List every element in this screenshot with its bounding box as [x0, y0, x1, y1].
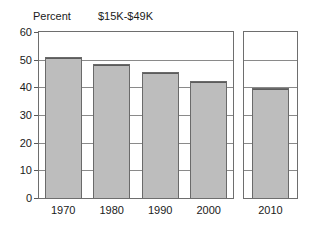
bar — [142, 72, 179, 198]
bar-top-edge — [46, 58, 81, 59]
bar — [45, 57, 82, 198]
x-tick-label: 1970 — [40, 205, 86, 216]
bar-top-edge — [253, 89, 288, 90]
y-tick-label: 50 — [6, 55, 32, 66]
gridline — [244, 60, 297, 61]
y-tick-label: 60 — [6, 27, 32, 38]
projection-plot-panel — [243, 31, 298, 199]
x-tick-label: 1990 — [137, 205, 183, 216]
main-plot-panel — [38, 31, 234, 199]
bar-top-edge — [143, 73, 178, 74]
y-axis-label: Percent — [33, 11, 71, 22]
y-tick-label: 0 — [6, 193, 32, 204]
y-tick-label: 40 — [6, 82, 32, 93]
x-tick-label: 1980 — [89, 205, 135, 216]
chart-title: $15K-$49K — [98, 11, 153, 22]
bar-top-edge — [94, 65, 129, 66]
bar-top-edge — [191, 82, 226, 83]
y-tick-label: 10 — [6, 165, 32, 176]
y-tick-label: 20 — [6, 138, 32, 149]
bar-chart: Percent $15K-$49K 0102030405060 19701980… — [0, 0, 312, 232]
bar — [252, 88, 289, 198]
y-tick-label: 30 — [6, 110, 32, 121]
x-tick-label: 2010 — [248, 205, 294, 216]
bar — [93, 64, 130, 198]
bar — [190, 81, 227, 198]
x-tick-label: 2000 — [186, 205, 232, 216]
